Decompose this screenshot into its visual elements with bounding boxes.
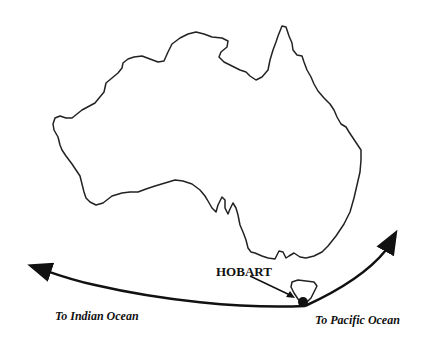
pacific-ocean-label: To Pacific Ocean	[315, 313, 400, 327]
hobart-pointer-line	[250, 276, 292, 296]
australia-mainland-outline	[53, 26, 361, 259]
route-line-east	[305, 234, 395, 306]
hobart-city-marker	[298, 297, 308, 307]
map-canvas: HOBART To Indian Ocean To Pacific Ocean	[0, 0, 433, 346]
hobart-label: HOBART	[216, 264, 272, 279]
indian-ocean-label: To Indian Ocean	[55, 309, 139, 323]
